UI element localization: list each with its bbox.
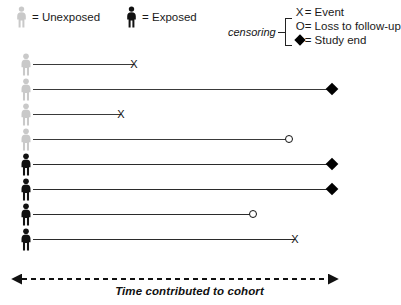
lifeline	[33, 89, 332, 90]
person-icon-dark	[20, 178, 32, 201]
lifeline	[33, 64, 134, 65]
lifeline	[33, 164, 332, 165]
diamond-icon	[326, 158, 339, 171]
x-mark-icon: X	[130, 59, 137, 70]
lifeline	[33, 139, 289, 140]
person-icon-light	[20, 128, 32, 151]
time-axis: Time contributed to cohort	[0, 272, 379, 305]
lifeline	[33, 239, 295, 240]
open-circle-icon	[285, 135, 293, 143]
x-mark-icon: X	[291, 234, 298, 245]
person-icon-dark	[20, 203, 32, 226]
diamond-icon	[326, 183, 339, 196]
lifeline	[33, 214, 253, 215]
person-icon-light	[20, 53, 32, 76]
person-icon-dark	[20, 228, 32, 251]
diamond-icon	[326, 83, 339, 96]
x-mark-icon: X	[117, 109, 124, 120]
person-icon-light	[20, 103, 32, 126]
person-icon-light	[20, 78, 32, 101]
lifeline	[33, 189, 332, 190]
time-axis-label: Time contributed to cohort	[0, 285, 379, 297]
open-circle-icon	[249, 210, 257, 218]
lifeline	[33, 114, 121, 115]
person-icon-dark	[20, 153, 32, 176]
subject-rows: XXX	[0, 0, 379, 265]
